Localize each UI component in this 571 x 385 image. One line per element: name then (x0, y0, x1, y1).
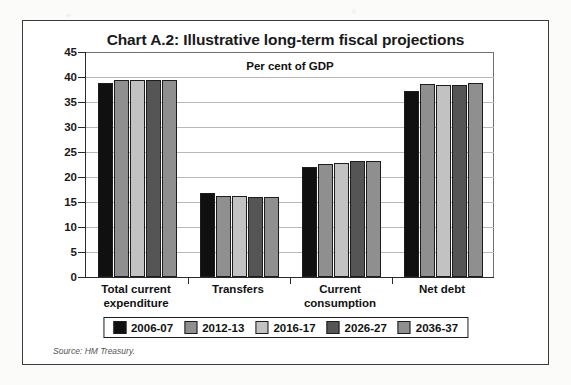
bar (98, 83, 113, 278)
legend-item[interactable]: 2026-27 (327, 321, 387, 334)
x-axis-labels: Total currentexpenditureTransfersCurrent… (85, 283, 493, 310)
legend-swatch-icon (113, 321, 126, 334)
y-axis-tick-label: 10 (64, 221, 77, 233)
chart-title: Chart A.2: Illustrative long-term fiscal… (23, 31, 548, 49)
bar (162, 80, 177, 278)
x-axis-label-line: expenditure (85, 297, 187, 311)
bar (404, 91, 419, 278)
y-axis-tick-label: 25 (64, 146, 77, 158)
legend-swatch-icon (184, 321, 197, 334)
legend-item[interactable]: 2012-13 (184, 321, 244, 334)
bar (452, 85, 467, 278)
y-axis-tick-label: 35 (64, 96, 77, 108)
bar (436, 85, 451, 277)
bar (318, 164, 333, 278)
y-axis-tick-mark (78, 127, 85, 128)
y-axis-tick-mark (78, 177, 85, 178)
legend-label: 2016-17 (273, 322, 315, 334)
legend-label: 2036-37 (416, 322, 458, 334)
bar-group (86, 52, 188, 277)
y-axis-tick-label: 20 (64, 171, 77, 183)
legend-label: 2026-27 (345, 322, 387, 334)
y-axis-tick-label: 15 (64, 196, 77, 208)
bar (216, 196, 231, 277)
chart-legend: 2006-072012-132016-172026-272036-37 (103, 317, 468, 338)
y-axis-tick-label: 40 (64, 71, 77, 83)
y-axis-tick-label: 0 (71, 271, 77, 283)
bar (420, 84, 435, 277)
x-axis-label-line: Current (289, 283, 391, 297)
bar-groups (86, 52, 494, 277)
bar (114, 80, 129, 277)
y-axis-tick-mark (78, 102, 85, 103)
bar (232, 196, 247, 277)
x-axis-tick-mark (392, 277, 393, 284)
bar (200, 193, 215, 277)
y-axis-tick-label: 5 (71, 246, 77, 258)
legend-swatch-icon (255, 321, 268, 334)
y-axis-tick-label: 30 (64, 121, 77, 133)
legend-label: 2012-13 (202, 322, 244, 334)
bar (248, 197, 263, 278)
chart-subtitle: Per cent of GDP (86, 60, 494, 72)
bar (350, 161, 365, 277)
bar-group (392, 52, 494, 277)
x-axis-tick-mark (290, 277, 291, 284)
x-axis-label: Total currentexpenditure (85, 283, 187, 310)
legend-item[interactable]: 2036-37 (398, 321, 458, 334)
y-axis-tick-label: 45 (64, 46, 77, 58)
y-axis-tick-mark (78, 77, 85, 78)
bar (264, 197, 279, 278)
y-axis-tick-mark (78, 227, 85, 228)
source-note: Source: HM Treasury. (53, 346, 135, 356)
x-axis-label: Transfers (187, 283, 289, 310)
figure-frame: Chart A.2: Illustrative long-term fiscal… (22, 20, 549, 365)
bar (334, 163, 349, 277)
x-axis-label-line: consumption (289, 297, 391, 311)
x-axis-tick-mark (188, 277, 189, 284)
y-axis-tick-mark (78, 202, 85, 203)
y-axis-tick-mark (78, 277, 85, 278)
y-axis-tick-mark (78, 252, 85, 253)
x-axis-label: Currentconsumption (289, 283, 391, 310)
legend-item[interactable]: 2016-17 (255, 321, 315, 334)
legend-swatch-icon (327, 321, 340, 334)
bar (146, 80, 161, 277)
y-axis-tick-mark (78, 152, 85, 153)
x-axis-label-line: Net debt (391, 283, 493, 297)
legend-item[interactable]: 2006-07 (113, 321, 173, 334)
chart-screenshot: Chart A.2: Illustrative long-term fiscal… (0, 0, 571, 385)
y-axis-tick-mark (78, 52, 85, 53)
bar (302, 167, 317, 277)
bar (468, 83, 483, 278)
legend-label: 2006-07 (131, 322, 173, 334)
x-axis-label-line: Transfers (187, 283, 289, 297)
bar-group (290, 52, 392, 277)
bar-group (188, 52, 290, 277)
x-axis-label-line: Total current (85, 283, 187, 297)
bar (366, 161, 381, 278)
x-axis-label: Net debt (391, 283, 493, 310)
plot-area: 051015202530354045 Per cent of GDP (85, 52, 494, 278)
bar (130, 80, 145, 277)
legend-swatch-icon (398, 321, 411, 334)
